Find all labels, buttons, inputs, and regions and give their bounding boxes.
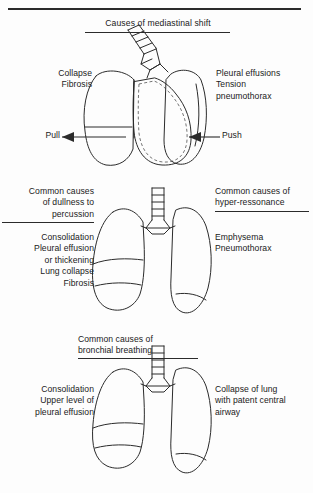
figure-page: Causes of mediastinal shift Collapse Fib…: [0, 0, 313, 493]
top-rule: [8, 8, 301, 10]
mediastinal-shift-diagram: [0, 14, 313, 174]
panel-mediastinal-shift: Causes of mediastinal shift Collapse Fib…: [0, 14, 313, 174]
percussion-lungs-diagram: [0, 176, 313, 334]
panel-percussion-note: Common causes of dullness to percussion …: [0, 176, 313, 334]
panel-bronchial-breathing: Common causes of bronchial breathing Con…: [0, 332, 313, 493]
bronchial-breathing-lungs-diagram: [0, 332, 313, 493]
